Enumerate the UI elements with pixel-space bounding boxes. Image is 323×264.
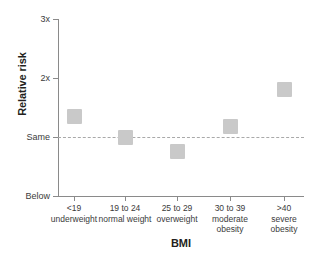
- x-tick-label-4-line2: severe: [253, 214, 315, 225]
- x-tick-label-4-line1: >40: [253, 203, 315, 214]
- x-tick-0: [74, 196, 75, 201]
- x-tick-label-3-line2: moderate: [199, 214, 261, 225]
- data-marker: [170, 144, 185, 159]
- y-tick-label-2x: 2x: [40, 74, 50, 83]
- y-tick-below: [53, 196, 58, 197]
- x-axis-line: [58, 196, 304, 197]
- data-marker: [67, 109, 82, 124]
- y-tick-label-below: Below: [25, 192, 50, 201]
- relative-risk-bmi-chart: Relative risk 3x 2x Same Below <19 under…: [0, 0, 323, 264]
- x-tick-3: [230, 196, 231, 201]
- x-tick-label-3-line1: 30 to 39: [199, 203, 261, 214]
- y-tick-2x: [53, 78, 58, 79]
- x-tick-label-4: >40 severe obesity: [253, 203, 315, 235]
- y-axis-line: [58, 19, 59, 197]
- x-tick-4: [284, 196, 285, 201]
- data-marker: [118, 130, 133, 145]
- data-marker: [277, 82, 292, 97]
- y-tick-3x: [53, 19, 58, 20]
- x-tick-label-4-line3: obesity: [253, 224, 315, 235]
- same-reference-line: [58, 137, 304, 138]
- x-tick-label-3: 30 to 39 moderate obesity: [199, 203, 261, 235]
- y-tick-label-3x: 3x: [40, 15, 50, 24]
- y-axis-title: Relative risk: [16, 34, 28, 134]
- x-axis-title: BMI: [58, 237, 304, 249]
- data-marker: [223, 119, 238, 134]
- y-tick-label-same: Same: [26, 133, 50, 142]
- y-tick-same: [53, 137, 58, 138]
- x-tick-2: [177, 196, 178, 201]
- x-tick-label-3-line3: obesity: [199, 224, 261, 235]
- x-tick-1: [125, 196, 126, 201]
